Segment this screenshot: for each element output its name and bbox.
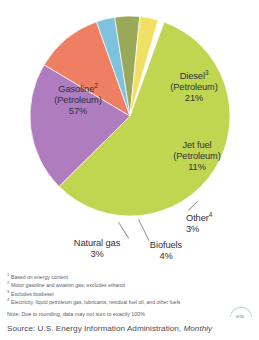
slice-label-gasoline: Gasoline2 (Petroleum) 57% [26, 84, 130, 117]
slice-label-jet-fuel-value: 11% [152, 162, 242, 173]
slice-label-diesel-name: Diesel3 [148, 71, 240, 82]
slice-label-gasoline-name: Gasoline2 [26, 84, 130, 95]
eia-logo-text: eia [228, 313, 252, 319]
leader-line-biofuels [138, 219, 149, 241]
footnote-ref-2: 2 [94, 82, 97, 89]
footnote-list: 1Based on energy content2Motor gasoline … [7, 273, 212, 306]
slice-label-other: Other4 3% [186, 213, 240, 235]
source-publication: Monthly [184, 324, 213, 333]
slice-label-diesel-value: 21% [148, 93, 240, 104]
footnote-3: 3Excludes biodiesel [7, 290, 212, 298]
footnote-text-4: Electricity, liquid petroleum gas, lubri… [11, 298, 212, 306]
slice-label-other-name: Other4 [186, 213, 240, 224]
slice-label-biofuels-name: Biofuels [137, 240, 195, 251]
slice-label-natural-gas-name: Natural gas [58, 238, 136, 249]
chart-note: Note: Due to rounding, data may not sum … [7, 311, 207, 318]
slice-label-jet-fuel-sub: (Petroleum) [152, 151, 242, 162]
footnote-1: 1Based on energy content [7, 273, 212, 281]
footnote-text-1: Based on energy content [11, 273, 212, 281]
slice-label-diesel-sub: (Petroleum) [148, 82, 240, 93]
slice-label-natural-gas-value: 3% [58, 249, 136, 260]
slice-label-gasoline-value: 57% [26, 106, 130, 117]
leader-line-natural-gas [118, 222, 129, 239]
footnote-text-2: Motor gasoline and aviation gas; exclude… [11, 281, 212, 289]
footnote-ref-4: 4 [209, 211, 212, 218]
slice-label-biofuels: Biofuels 4% [137, 240, 195, 262]
footnote-2: 2Motor gasoline and aviation gas; exclud… [7, 281, 212, 289]
footnote-ref-3: 3 [205, 69, 208, 76]
source-line: Source: U.S. Energy Information Administ… [7, 324, 255, 333]
footnote-text-3: Excludes biodiesel [11, 290, 212, 298]
footnote-4: 4Electricity, liquid petroleum gas, lubr… [7, 298, 212, 306]
pie-chart-figure: Gasoline2 (Petroleum) 57% Diesel3 (Petro… [0, 0, 259, 272]
slice-label-jet-fuel: Jet fuel (Petroleum) 11% [152, 140, 242, 173]
slice-label-jet-fuel-name: Jet fuel [152, 140, 242, 151]
slice-label-gasoline-sub: (Petroleum) [26, 95, 130, 106]
eia-logo: eia [228, 307, 252, 321]
source-prefix: Source: U.S. Energy Information Administ… [7, 324, 184, 333]
slice-label-natural-gas: Natural gas 3% [58, 238, 136, 260]
slice-label-biofuels-value: 4% [137, 251, 195, 262]
slice-label-diesel: Diesel3 (Petroleum) 21% [148, 71, 240, 104]
slice-label-other-value: 3% [186, 224, 240, 235]
